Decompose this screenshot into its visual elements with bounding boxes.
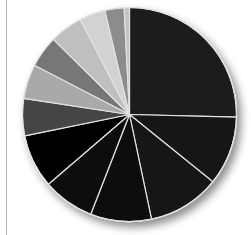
pie-chart: [0, 0, 251, 235]
pie-slices: [22, 8, 236, 222]
pie-slice-1: [130, 8, 237, 118]
pie-chart-svg: [0, 0, 251, 235]
